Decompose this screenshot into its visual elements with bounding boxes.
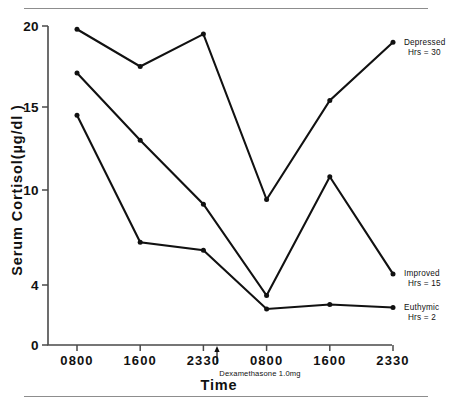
legend-layer: DepressedHrs = 30ImprovedHrs = 15Euthymi…	[404, 38, 446, 322]
x-axis-ticks	[77, 345, 393, 351]
figure-container: 20151040 080016002330080016002330 Serum …	[0, 0, 450, 409]
series-line-euthymic	[77, 115, 393, 309]
data-point-depressed-2	[201, 32, 206, 37]
y-tick-label: 15	[23, 100, 39, 115]
data-point-depressed-5	[391, 40, 396, 45]
dexamethasone-label: Dexamethasone 1.0mg	[219, 369, 300, 378]
data-point-euthymic-2	[201, 248, 206, 253]
y-tick-label: 0	[31, 338, 39, 353]
data-point-depressed-4	[327, 98, 332, 103]
data-point-depressed-3	[264, 197, 269, 202]
data-point-improved-3	[264, 293, 269, 298]
up-arrow-head-icon	[214, 346, 219, 352]
x-axis-title: Time	[200, 377, 237, 393]
bottom-divider-rule	[24, 396, 428, 397]
series-line-depressed	[77, 29, 393, 199]
x-tick-label: 1600	[313, 353, 346, 368]
data-point-improved-4	[327, 174, 332, 179]
top-divider-rule	[24, 8, 428, 9]
y-tick-label: 20	[23, 19, 39, 34]
legend-sublabel-euthymic: Hrs = 2	[408, 313, 436, 322]
x-tick-label: 2330	[187, 353, 220, 368]
x-tick-label: 1600	[124, 353, 157, 368]
y-tick-label: 4	[31, 278, 39, 293]
legend-label-improved: Improved	[404, 269, 440, 278]
x-tick-label: 0800	[250, 353, 283, 368]
x-tick-label: 0800	[60, 353, 93, 368]
line-chart: 20151040 080016002330080016002330 Serum …	[0, 0, 450, 409]
y-axis-tick-labels: 20151040	[23, 19, 39, 353]
series-layer	[75, 27, 396, 312]
data-point-euthymic-3	[264, 307, 269, 312]
data-point-euthymic-1	[138, 240, 143, 245]
legend-label-depressed: Depressed	[404, 38, 446, 47]
data-point-euthymic-4	[327, 302, 332, 307]
x-tick-label: 2330	[376, 353, 409, 368]
data-point-depressed-0	[75, 27, 80, 32]
x-axis-tick-labels: 080016002330080016002330	[60, 353, 409, 368]
axis-lines	[48, 26, 392, 345]
data-point-euthymic-5	[391, 305, 396, 310]
data-point-euthymic-0	[75, 113, 80, 118]
data-point-improved-2	[201, 202, 206, 207]
y-axis-title: Serum Cortisol(µg/dl )	[9, 104, 25, 276]
y-axis-ticks	[42, 26, 48, 345]
series-line-improved	[77, 73, 393, 296]
data-point-improved-0	[75, 70, 80, 75]
y-tick-label: 10	[23, 183, 39, 198]
legend-sublabel-depressed: Hrs = 30	[408, 48, 441, 57]
legend-label-euthymic: Euthymic	[404, 303, 439, 312]
legend-sublabel-improved: Hrs = 15	[408, 279, 441, 288]
data-point-improved-1	[138, 138, 143, 143]
data-point-depressed-1	[138, 64, 143, 69]
data-point-improved-5	[391, 271, 396, 276]
